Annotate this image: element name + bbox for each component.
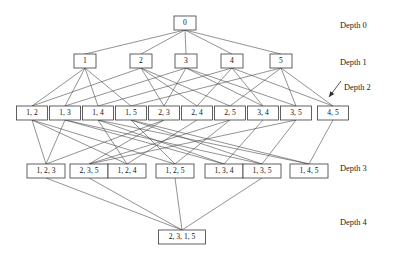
node-label: 5 — [279, 56, 283, 65]
node-label: 0 — [183, 18, 187, 27]
graph-node-n134[interactable]: 1, 3, 4 — [205, 164, 243, 178]
depth-labels-layer: Depth 0Depth 1Depth 2Depth 3Depth 4 — [340, 21, 371, 227]
graph-node-n14[interactable]: 1, 4 — [83, 106, 114, 120]
graph-edge — [32, 120, 175, 164]
graph-edge — [65, 120, 224, 164]
graph-edge — [175, 120, 230, 164]
graph-edge — [46, 178, 182, 230]
graph-node-n3[interactable]: 3 — [175, 54, 197, 68]
node-label: 4, 5 — [327, 108, 339, 117]
node-label: 1, 4, 5 — [300, 166, 319, 175]
graph-node-n34[interactable]: 3, 4 — [248, 106, 279, 120]
node-label: 1, 3, 5 — [253, 166, 272, 175]
graph-node-n0[interactable]: 0 — [174, 16, 196, 30]
node-label: 1, 2, 4 — [118, 166, 137, 175]
graph-node-n125[interactable]: 1, 2, 5 — [156, 164, 194, 178]
depth-2-pointer-arrowhead — [329, 91, 334, 97]
node-label: 2, 3, 5 — [80, 166, 99, 175]
depth-label-2: Depth 2 — [344, 83, 371, 92]
graph-node-n45[interactable]: 4, 5 — [318, 106, 349, 120]
node-label: 1, 3 — [59, 108, 71, 117]
graph-node-n23[interactable]: 2, 3 — [149, 106, 180, 120]
node-label: 3, 5 — [290, 108, 302, 117]
node-label: 3 — [184, 56, 188, 65]
graph-edge — [98, 120, 309, 164]
node-label: 1, 5 — [125, 108, 137, 117]
node-label: 2, 5 — [224, 108, 236, 117]
depth-label-0: Depth 0 — [340, 21, 367, 30]
graph-node-n2315[interactable]: 2, 3, 1, 5 — [159, 230, 206, 244]
graph-edge — [186, 68, 263, 106]
graph-node-n1[interactable]: 1 — [74, 54, 96, 68]
node-label: 2, 3 — [158, 108, 170, 117]
graph-edge — [89, 120, 296, 164]
node-label: 1, 2 — [26, 108, 38, 117]
graph-node-n4[interactable]: 4 — [221, 54, 243, 68]
graph-edge — [46, 120, 65, 164]
graph-node-n13[interactable]: 1, 3 — [50, 106, 81, 120]
graph-edge — [185, 30, 232, 54]
nodes-layer: 0123451, 21, 31, 41, 52, 32, 42, 53, 43,… — [17, 16, 349, 244]
node-label: 3, 4 — [257, 108, 269, 117]
graph-node-n24[interactable]: 2, 4 — [182, 106, 213, 120]
graph-node-n235[interactable]: 2, 3, 5 — [70, 164, 108, 178]
pointer-arrow-layer — [329, 81, 341, 97]
graph-node-n135[interactable]: 1, 3, 5 — [243, 164, 281, 178]
graph-node-n145[interactable]: 1, 4, 5 — [290, 164, 328, 178]
node-label: 1, 2, 3 — [37, 166, 56, 175]
graph-node-n25[interactable]: 2, 5 — [215, 106, 246, 120]
graph-edge — [141, 68, 197, 106]
graph-edge — [85, 30, 185, 54]
graph-edge — [185, 30, 186, 54]
figure-canvas: 0123451, 21, 31, 41, 52, 32, 42, 53, 43,… — [0, 0, 396, 256]
graph-edge — [131, 120, 309, 164]
graph-edge — [141, 30, 185, 54]
depth-label-1: Depth 1 — [340, 58, 367, 67]
graph-edge — [65, 120, 262, 164]
graph-node-n35[interactable]: 3, 5 — [281, 106, 312, 120]
graph-edge — [224, 120, 263, 164]
graph-edge — [309, 120, 333, 164]
graph-node-n12[interactable]: 1, 2 — [17, 106, 48, 120]
node-label: 2, 3, 1, 5 — [169, 232, 196, 241]
depth-label-3: Depth 3 — [340, 164, 367, 173]
node-label: 2 — [139, 56, 143, 65]
graph-edge — [182, 178, 262, 230]
graph-edge — [32, 120, 46, 164]
graph-node-n124[interactable]: 1, 2, 4 — [108, 164, 146, 178]
graph-node-n123[interactable]: 1, 2, 3 — [27, 164, 65, 178]
lattice-diagram: 0123451, 21, 31, 41, 52, 32, 42, 53, 43,… — [0, 0, 396, 256]
graph-edge — [89, 178, 182, 230]
graph-edge — [175, 178, 182, 230]
graph-node-n5[interactable]: 5 — [270, 54, 292, 68]
graph-edge — [65, 68, 85, 106]
node-label: 1, 2, 5 — [166, 166, 185, 175]
graph-edge — [32, 68, 85, 106]
node-label: 1, 3, 4 — [215, 166, 234, 175]
graph-edge — [98, 68, 232, 106]
node-label: 2, 4 — [191, 108, 203, 117]
graph-edge — [131, 120, 262, 164]
graph-edge — [185, 30, 281, 54]
node-label: 1 — [83, 56, 87, 65]
graph-edge — [262, 120, 296, 164]
graph-edge — [98, 120, 224, 164]
node-label: 1, 4 — [92, 108, 104, 117]
graph-node-n15[interactable]: 1, 5 — [116, 106, 147, 120]
graph-edge — [89, 120, 230, 164]
graph-edge — [230, 68, 281, 106]
graph-node-n2[interactable]: 2 — [130, 54, 152, 68]
node-label: 4 — [230, 56, 234, 65]
graph-edge — [46, 120, 164, 164]
depth-label-4: Depth 4 — [340, 218, 368, 227]
